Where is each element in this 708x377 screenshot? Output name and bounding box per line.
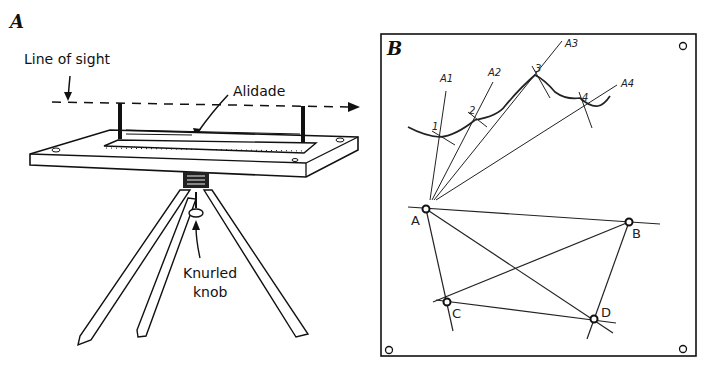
arrowhead-icon — [348, 102, 360, 112]
panel-a: A Line of sight Alidade — [8, 11, 360, 345]
station-label-a: A — [411, 213, 420, 228]
alidade-label: Alidade — [233, 83, 285, 99]
ray-label-a3: A3 — [564, 38, 578, 49]
plane-table-sheet — [381, 34, 696, 356]
profile-point-2: 2 — [469, 105, 475, 116]
ray-label-a1: A1 — [439, 73, 453, 84]
panel-b: B A1 A2 A3 A4 1 2 3 4 — [381, 34, 696, 356]
profile-point-4: 4 — [582, 92, 588, 103]
profile-point-3: 3 — [535, 63, 541, 74]
station-label-d: D — [601, 305, 611, 320]
plane-table-board — [30, 130, 358, 177]
line-of-sight-label: Line of sight — [24, 51, 111, 67]
panel-a-label: A — [8, 11, 24, 32]
profile-point-1: 1 — [432, 121, 438, 132]
station-label-c: C — [452, 306, 461, 321]
panel-b-label: B — [386, 38, 402, 59]
knurled-knob — [189, 209, 203, 217]
knurled-knob-label-line2: knob — [193, 284, 228, 300]
ray-label-a4: A4 — [620, 78, 634, 89]
plane-table-figure: A Line of sight Alidade — [0, 0, 708, 377]
knurled-knob-label-line1: Knurled — [183, 265, 237, 281]
ray-label-a2: A2 — [487, 67, 501, 78]
station-label-b: B — [632, 226, 641, 241]
